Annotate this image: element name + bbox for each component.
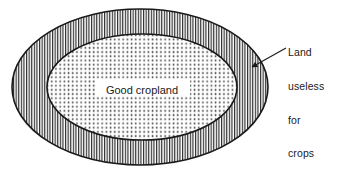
callout-line-4: crops <box>288 148 324 159</box>
inner-region-label: Good cropland <box>106 84 178 96</box>
callout-label-land-useless: Land useless for crops <box>288 25 324 178</box>
callout-line-1: Land <box>288 47 324 58</box>
figure-root: Good cropland Land useless for crops <box>0 0 338 178</box>
callout-line-2: useless <box>288 81 324 92</box>
callout-line-3: for <box>288 115 324 126</box>
